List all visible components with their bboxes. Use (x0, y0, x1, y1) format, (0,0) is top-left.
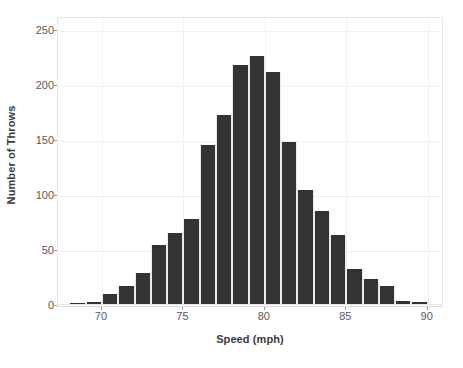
histogram-bar (346, 269, 362, 304)
x-axis-tick-labels: 7075808590 (0, 310, 463, 326)
histogram-bar (379, 286, 395, 304)
histogram-bar (363, 279, 379, 304)
histogram-bar (249, 56, 265, 304)
histogram-bar (232, 65, 248, 304)
x-axis-tick-label: 90 (421, 310, 433, 322)
y-axis-tickmark (53, 30, 57, 31)
histogram-bar (183, 219, 199, 304)
histogram-bar (216, 115, 232, 304)
histogram-bar (118, 286, 134, 304)
histogram-bar (135, 273, 151, 304)
histogram-bar (395, 301, 411, 304)
histogram-bar (151, 245, 167, 304)
x-axis-tick-label: 70 (95, 310, 107, 322)
x-axis-tick-label: 80 (258, 310, 270, 322)
y-axis-tick-label: 250 (8, 24, 54, 36)
histogram-bar (86, 302, 102, 304)
histogram-bar (69, 303, 85, 304)
bars-layer (58, 18, 442, 304)
histogram-bar (411, 302, 427, 304)
histogram-bar (297, 190, 313, 304)
y-axis-tick-label: 200 (8, 79, 54, 91)
y-axis-tick-label: 150 (8, 134, 54, 146)
histogram-chart: Number of Throws 050100150200250 7075808… (0, 0, 463, 368)
histogram-bar (102, 294, 118, 304)
histogram-bar (167, 233, 183, 304)
x-axis-spine (57, 306, 443, 307)
histogram-bar (200, 145, 216, 304)
x-axis-title: Speed (mph) (57, 333, 443, 345)
histogram-bar (281, 142, 297, 304)
y-axis-tick-label: 50 (8, 244, 54, 256)
y-axis-tickmark (53, 250, 57, 251)
histogram-bar (330, 235, 346, 304)
y-axis-tick-label: 100 (8, 189, 54, 201)
histogram-bar (314, 211, 330, 304)
y-axis-tickmark (53, 140, 57, 141)
x-axis-tick-label: 85 (339, 310, 351, 322)
y-axis-tickmark (53, 85, 57, 86)
y-axis-tickmark (53, 195, 57, 196)
histogram-bar (265, 72, 281, 304)
plot-area (57, 17, 443, 305)
x-axis-tick-label: 75 (176, 310, 188, 322)
